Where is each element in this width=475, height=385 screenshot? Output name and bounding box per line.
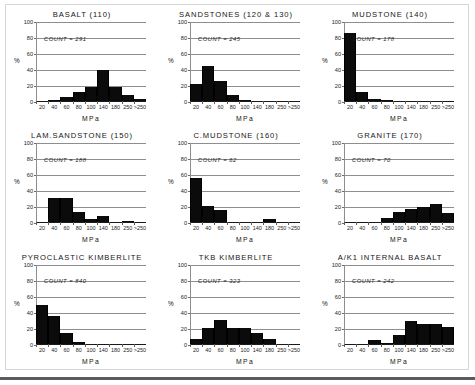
- y-tick-label: 60: [27, 51, 33, 57]
- y-axis-label: %: [14, 178, 20, 185]
- histogram-bar: [202, 206, 214, 222]
- gridline: [36, 297, 146, 298]
- x-tick-row: 20406080100140180250>250: [36, 104, 146, 113]
- x-axis-line: [190, 101, 300, 102]
- x-tick-label: 80: [76, 347, 82, 353]
- count-annotation: COUNT = 245: [198, 36, 240, 42]
- count-annotation: COUNT = 62: [198, 157, 237, 163]
- y-axis-label: %: [168, 178, 174, 185]
- y-tick-label: 100: [332, 262, 341, 268]
- y-tick-label: 40: [27, 310, 33, 316]
- y-tick-label: 80: [181, 35, 187, 41]
- y-tick-label: 20: [335, 204, 341, 210]
- gridline: [36, 313, 146, 314]
- y-tick-label: 0: [30, 99, 33, 105]
- x-tick-label: 250: [123, 104, 132, 110]
- x-tick-mark: [202, 101, 203, 104]
- y-tick-label: 80: [335, 35, 341, 41]
- gridline: [344, 54, 454, 55]
- count-annotation: COUNT = 178: [352, 36, 394, 42]
- x-tick-mark: [73, 101, 74, 104]
- x-tick-label: >250: [134, 347, 146, 353]
- y-tick-label: 40: [181, 310, 187, 316]
- y-tick-label: 60: [335, 294, 341, 300]
- gridline: [344, 265, 454, 266]
- x-tick-mark: [60, 344, 61, 347]
- y-tick-label: 20: [27, 204, 33, 210]
- gridline: [190, 265, 300, 266]
- x-tick-mark: [36, 344, 37, 347]
- y-tick-label: 100: [178, 19, 187, 25]
- gridline: [344, 86, 454, 87]
- x-tick-row: 20406080100140180250>250: [190, 104, 300, 113]
- y-tick-label: 80: [335, 278, 341, 284]
- x-tick-mark: [73, 222, 74, 225]
- count-annotation: COUNT = 323: [198, 278, 240, 284]
- x-axis-line: [344, 101, 454, 102]
- y-axis-line: [36, 22, 37, 102]
- x-tick-label: >250: [288, 347, 300, 353]
- x-axis-line: [344, 222, 454, 223]
- x-tick-label: 100: [87, 347, 96, 353]
- gridline: [190, 143, 300, 144]
- y-tick-label: 100: [332, 19, 341, 25]
- gridline: [36, 143, 146, 144]
- gridline: [190, 297, 300, 298]
- histogram-bar: [405, 209, 417, 223]
- x-tick-label: 20: [193, 347, 199, 353]
- x-axis-line: [36, 344, 146, 345]
- histogram-bar: [60, 333, 72, 343]
- x-axis-label: MPa: [36, 236, 146, 243]
- plot-box: 020406080100: [36, 265, 146, 345]
- panel-title: PYROCLASTIC KIMBERLITE: [6, 253, 158, 262]
- x-axis-line: [36, 101, 146, 102]
- y-tick-label: 0: [184, 342, 187, 348]
- plot-area: 020406080100: [344, 22, 454, 102]
- y-tick-label: 100: [24, 262, 33, 268]
- plot-area: 020406080100: [344, 265, 454, 345]
- x-tick-label: 20: [347, 347, 353, 353]
- plot-area: 020406080100: [36, 265, 146, 345]
- x-tick-label: 60: [64, 104, 70, 110]
- x-tick-label: 180: [265, 104, 274, 110]
- histogram-bar: [393, 212, 405, 222]
- histogram-bar: [417, 324, 429, 344]
- y-tick-label: 100: [178, 140, 187, 146]
- x-tick-label: 250: [277, 347, 286, 353]
- y-axis-label: %: [322, 57, 328, 64]
- x-tick-label: 100: [395, 225, 404, 231]
- histogram-bar: [251, 333, 263, 343]
- panel-title: C.MUDSTONE (160): [160, 131, 312, 140]
- y-tick-label: 100: [24, 19, 33, 25]
- x-tick-mark: [214, 344, 215, 347]
- histogram-bar: [48, 316, 60, 343]
- x-tick-row: 20406080100140180250>250: [344, 347, 454, 356]
- gridline: [190, 191, 300, 192]
- x-tick-label: 100: [241, 104, 250, 110]
- gridline: [190, 54, 300, 55]
- x-tick-label: 40: [359, 347, 365, 353]
- x-tick-mark: [48, 344, 49, 347]
- x-tick-mark: [356, 344, 357, 347]
- x-tick-label: 100: [87, 104, 96, 110]
- plot-area: 020406080100: [190, 22, 300, 102]
- histogram-bar: [214, 320, 226, 344]
- histogram-bar: [73, 92, 85, 101]
- y-tick-label: 80: [181, 156, 187, 162]
- histogram-panel: C.MUDSTONE (160)%MPa02040608010020406080…: [160, 126, 314, 247]
- y-axis-line: [344, 265, 345, 345]
- x-tick-mark: [344, 101, 345, 104]
- histogram-bar: [85, 87, 97, 101]
- plot-box: 020406080100: [36, 22, 146, 102]
- x-tick-label: 40: [205, 347, 211, 353]
- histogram-panel: GRANITE (170)%MPa02040608010020406080100…: [314, 126, 468, 247]
- plot-area: 020406080100: [344, 143, 454, 223]
- y-tick-label: 60: [335, 172, 341, 178]
- y-axis-label: %: [168, 57, 174, 64]
- y-tick-label: 80: [27, 35, 33, 41]
- plot-box: 020406080100: [190, 265, 300, 345]
- gridline: [344, 22, 454, 23]
- y-tick-label: 20: [181, 204, 187, 210]
- x-tick-mark: [60, 222, 61, 225]
- x-tick-label: 80: [230, 225, 236, 231]
